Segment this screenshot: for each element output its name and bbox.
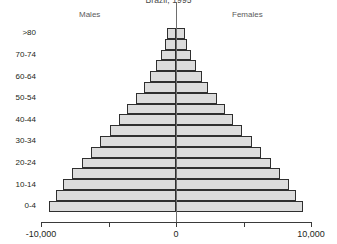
bar-row — [0, 82, 337, 93]
bar-females-20-24 — [176, 158, 271, 169]
bar-males-60-64 — [150, 71, 176, 82]
plot-area — [0, 0, 337, 222]
bar-row — [0, 71, 337, 82]
y-tick-label-50-54: 50-54 — [0, 93, 36, 102]
bar-females-65-69 — [176, 60, 196, 71]
bar-males-25-29 — [91, 147, 176, 158]
bar-males-0-4 — [49, 201, 176, 212]
bar-females-35-39 — [176, 125, 242, 136]
bar-row — [0, 125, 337, 136]
x-tick-10000 — [311, 222, 312, 227]
bar-females-70-74 — [176, 50, 191, 61]
bar-row — [0, 158, 337, 169]
bar-females-10-14 — [176, 179, 289, 190]
y-tick-label-30-34: 30-34 — [0, 136, 36, 145]
bar-males-70-74 — [161, 50, 176, 61]
y-tick-label-60-64: 60-64 — [0, 72, 36, 81]
bar-males-10-14 — [63, 179, 176, 190]
bar-females-40-44 — [176, 114, 233, 125]
bar-males-65-69 — [156, 60, 176, 71]
x-tick-0 — [176, 222, 177, 227]
bar-row — [0, 93, 337, 104]
bar-females-45-49 — [176, 104, 225, 115]
bar-row — [0, 147, 337, 158]
bar-females-5-9 — [176, 190, 296, 201]
bar-males-30-34 — [100, 136, 176, 147]
bar-row — [0, 114, 337, 125]
bar-females->80 — [176, 28, 185, 39]
bar-males-75-79 — [165, 39, 176, 50]
bar-males-55-59 — [144, 82, 176, 93]
bar-females-15-19 — [176, 168, 280, 179]
bar-males-45-49 — [127, 104, 176, 115]
y-tick-label-20-24: 20-24 — [0, 158, 36, 167]
bar-males-20-24 — [82, 158, 177, 169]
y-tick-label-40-44: 40-44 — [0, 115, 36, 124]
y-tick-label-0-4: 0-4 — [0, 201, 36, 210]
bar-males-15-19 — [72, 168, 176, 179]
bar-row — [0, 104, 337, 115]
bar-males-35-39 — [110, 125, 176, 136]
y-tick-label-10-14: 10-14 — [0, 180, 36, 189]
bar-row — [0, 179, 337, 190]
bar-females-25-29 — [176, 147, 261, 158]
population-pyramid-chart: Brazil, 1995 Males Females >8070-7460-64… — [0, 0, 337, 244]
bar-row — [0, 50, 337, 61]
bar-females-50-54 — [176, 93, 217, 104]
x-tick--10000 — [41, 222, 42, 227]
x-tick--5000 — [109, 222, 110, 227]
bar-females-75-79 — [176, 39, 187, 50]
bar-males-40-44 — [119, 114, 176, 125]
center-axis-line — [176, 2, 177, 222]
bar-males-50-54 — [136, 93, 177, 104]
y-tick-label->80: >80 — [0, 28, 36, 37]
bar-females-30-34 — [176, 136, 252, 147]
y-tick-label-70-74: 70-74 — [0, 50, 36, 59]
x-tick-label-max: 10,000 — [297, 229, 325, 239]
bar-row — [0, 39, 337, 50]
x-tick-label-center: 0 — [173, 229, 178, 239]
bar-females-0-4 — [176, 201, 303, 212]
bar-males-5-9 — [56, 190, 176, 201]
bar-row — [0, 201, 337, 212]
bar-females-55-59 — [176, 82, 208, 93]
x-tick-label-min: -10,000 — [26, 229, 57, 239]
bar-row — [0, 28, 337, 39]
x-tick-5000 — [244, 222, 245, 227]
bar-males->80 — [167, 28, 176, 39]
bar-row — [0, 190, 337, 201]
bar-females-60-64 — [176, 71, 202, 82]
bar-row — [0, 168, 337, 179]
bar-row — [0, 60, 337, 71]
bar-row — [0, 136, 337, 147]
